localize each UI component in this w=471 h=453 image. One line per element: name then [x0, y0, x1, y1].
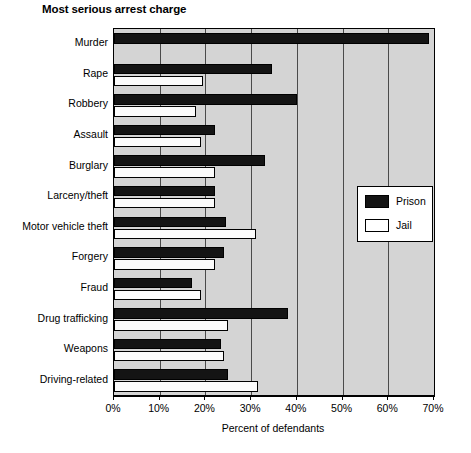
x-tick [342, 395, 343, 400]
bar-jail-driving-related [114, 381, 258, 392]
category-label-larceny-theft: Larceny/theft [47, 190, 108, 201]
x-tick-label: 70% [422, 402, 443, 414]
category-label-rape: Rape [83, 68, 108, 79]
bar-prison-robbery [114, 94, 297, 105]
gridline [343, 29, 344, 396]
bar-jail-robbery [114, 106, 196, 117]
category-label-driving-related: Driving-related [40, 374, 108, 385]
bar-prison-assault [114, 125, 215, 136]
arrest-charge-bar-chart: Most serious arrest charge MurderRapeRob… [0, 0, 471, 453]
x-tick [204, 395, 205, 400]
category-label-fraud: Fraud [81, 282, 108, 293]
bar-jail-drug-trafficking [114, 320, 228, 331]
x-tick-label: 50% [331, 402, 352, 414]
x-tick [387, 395, 388, 400]
bar-prison-drug-trafficking [114, 308, 288, 319]
bar-prison-larceny-theft [114, 186, 215, 197]
x-tick-label: 20% [194, 402, 215, 414]
gridline [251, 29, 252, 396]
category-label-burglary: Burglary [69, 160, 108, 171]
x-tick-label: 60% [377, 402, 398, 414]
legend-swatch-jail-icon [365, 219, 389, 232]
x-axis-label: Percent of defendants [113, 422, 433, 434]
bar-jail-rape [114, 76, 203, 87]
category-label-motor-vehicle-theft: Motor vehicle theft [22, 221, 108, 232]
category-label-murder: Murder [75, 37, 108, 48]
category-label-drug-trafficking: Drug trafficking [38, 313, 108, 324]
bar-prison-motor-vehicle-theft [114, 217, 226, 228]
legend-label-prison: Prison [396, 195, 426, 208]
legend-swatch-prison-icon [365, 195, 389, 208]
x-tick [159, 395, 160, 400]
legend-label-jail: Jail [396, 219, 412, 232]
category-label-robbery: Robbery [68, 98, 108, 109]
gridline [297, 29, 298, 396]
chart-title: Most serious arrest charge [42, 3, 186, 15]
bar-prison-murder [114, 33, 429, 44]
x-tick [296, 395, 297, 400]
bar-prison-rape [114, 64, 272, 75]
bar-prison-weapons [114, 339, 221, 350]
bar-jail-forgery [114, 259, 215, 270]
bar-jail-burglary [114, 167, 215, 178]
x-tick [113, 395, 114, 400]
category-label-assault: Assault [74, 129, 108, 140]
category-label-forgery: Forgery [72, 251, 108, 262]
bar-jail-larceny-theft [114, 198, 215, 209]
chart-legend: Prison Jail [357, 186, 433, 242]
x-tick-label: 40% [285, 402, 306, 414]
bar-prison-forgery [114, 247, 224, 258]
x-tick-label: 10% [148, 402, 169, 414]
bar-prison-fraud [114, 278, 192, 289]
bar-jail-motor-vehicle-theft [114, 229, 256, 240]
x-tick-label: 0% [105, 402, 120, 414]
bar-jail-fraud [114, 290, 201, 301]
category-label-weapons: Weapons [64, 343, 108, 354]
x-tick [433, 395, 434, 400]
bar-jail-weapons [114, 351, 224, 362]
bar-prison-driving-related [114, 369, 228, 380]
bar-prison-burglary [114, 155, 265, 166]
x-tick-label: 30% [240, 402, 261, 414]
category-axis-labels: MurderRapeRobberyAssaultBurglaryLarceny/… [0, 28, 108, 395]
bar-jail-assault [114, 137, 201, 148]
x-axis [113, 395, 433, 396]
x-tick [250, 395, 251, 400]
